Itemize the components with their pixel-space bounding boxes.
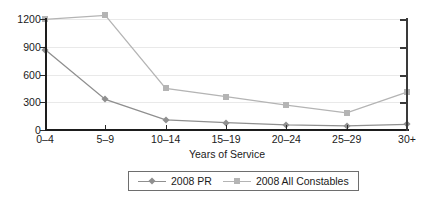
x-tick-label: 5–9 (97, 133, 115, 145)
right-axis-tick (400, 47, 406, 49)
x-axis-tick (226, 125, 227, 129)
y-axis-tick (40, 102, 45, 103)
chart-legend: 2008 PR 2008 All Constables (128, 171, 359, 191)
x-axis-tick (105, 125, 106, 129)
x-tick-label: 10–14 (151, 133, 180, 145)
y-axis-tick (40, 19, 45, 20)
y-axis-tick-labels: 03006009001200 (0, 19, 41, 130)
data-point-marker (163, 85, 169, 91)
x-tick-label: 0–4 (36, 133, 54, 145)
y-axis-line (45, 18, 47, 131)
legend-swatch-diamond-icon (138, 177, 166, 186)
line-chart: No. of Officers 03006009001200 0–45–910–… (0, 0, 446, 201)
right-axis-tick (400, 75, 406, 77)
y-axis-tick (40, 130, 45, 131)
y-axis-tick (40, 75, 45, 76)
x-axis-title: Years of Service (45, 148, 409, 160)
legend-item-2008-pr[interactable]: 2008 PR (138, 175, 212, 187)
y-tick-label: 600 (23, 69, 41, 81)
series-lines (45, 19, 408, 130)
series-line-2008-pr (45, 50, 407, 126)
y-axis-title: No. of Officers (0, 0, 10, 16)
x-tick-label: 25–29 (332, 133, 361, 145)
data-point-marker (223, 94, 229, 100)
x-axis-tick (286, 125, 287, 129)
x-tick-label: 30+ (398, 133, 416, 145)
right-axis-line (406, 18, 408, 131)
x-axis-tick (347, 125, 348, 129)
y-axis-tick (40, 47, 45, 48)
data-point-marker (102, 12, 108, 18)
x-tick-label: 20–24 (272, 133, 301, 145)
x-tick-label: 15–19 (211, 133, 240, 145)
legend-item-2008-all-constables[interactable]: 2008 All Constables (223, 175, 349, 187)
legend-label: 2008 All Constables (256, 175, 349, 187)
data-point-marker (283, 102, 289, 108)
x-axis-line (45, 129, 409, 131)
data-point-marker (344, 110, 350, 116)
y-tick-label: 900 (23, 41, 41, 53)
plot-area (45, 19, 408, 130)
right-axis-tick (400, 102, 406, 104)
legend-swatch-square-icon (223, 177, 251, 186)
y-tick-label: 300 (23, 96, 41, 108)
y-tick-label: 1200 (17, 13, 41, 25)
legend-label: 2008 PR (171, 175, 212, 187)
x-axis-tick (166, 125, 167, 129)
right-axis-tick (400, 19, 406, 21)
